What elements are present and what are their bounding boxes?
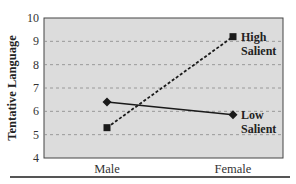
legend-label: Salient (241, 44, 276, 58)
legend-label: High (241, 30, 267, 44)
x-category-label: Male (94, 162, 120, 176)
y-tick-label: 5 (33, 128, 39, 142)
x-axis-categories: MaleFemale (94, 162, 252, 176)
y-tick-label: 7 (33, 81, 39, 95)
y-tick-label: 8 (33, 58, 39, 72)
y-tick-label: 10 (27, 11, 39, 25)
y-tick-label: 9 (33, 34, 39, 48)
line-chart: 45678910 Tentative Language MaleFemale H… (0, 0, 296, 184)
y-axis-label: Tentative Language (5, 35, 19, 141)
y-axis-ticks: 45678910 (27, 11, 39, 165)
bottom-rule (10, 176, 290, 178)
square-marker (104, 124, 111, 131)
legend-label: Low (241, 108, 264, 122)
square-marker (230, 33, 237, 40)
legend-label: Salient (241, 122, 276, 136)
y-tick-label: 4 (33, 151, 39, 165)
y-tick-label: 6 (33, 104, 39, 118)
x-category-label: Female (215, 162, 252, 176)
